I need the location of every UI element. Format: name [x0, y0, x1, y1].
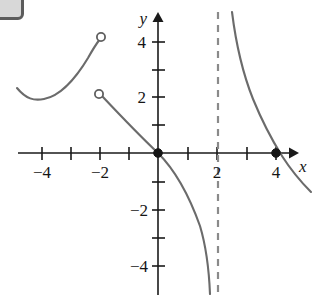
x-tick-label-neg2: −2: [91, 163, 109, 182]
open-point-neg2-4: [97, 33, 105, 41]
open-point-neg2-2: [95, 90, 103, 98]
x-axis-label: x: [298, 157, 307, 176]
x-tick-label-2: 2: [213, 163, 222, 182]
x-tick-label-4: 4: [272, 163, 281, 182]
y-axis-label: y: [137, 9, 147, 28]
x-tick-label-neg4: −4: [33, 163, 52, 182]
y-tick-label-2: 2: [138, 88, 147, 107]
closed-point-origin: [154, 149, 163, 158]
y-tick-label-neg2: −2: [130, 201, 148, 220]
closed-point-4-0: [272, 149, 281, 158]
y-tick-label-4: 4: [138, 33, 147, 52]
coordinate-plane: −4 −2 2 4 4 2 −2 −4 y x: [0, 0, 314, 295]
y-tick-label-neg4: −4: [130, 257, 149, 276]
curve-left-branch: [17, 39, 100, 100]
graph-figure: −4 −2 2 4 4 2 −2 −4 y x: [0, 0, 314, 295]
